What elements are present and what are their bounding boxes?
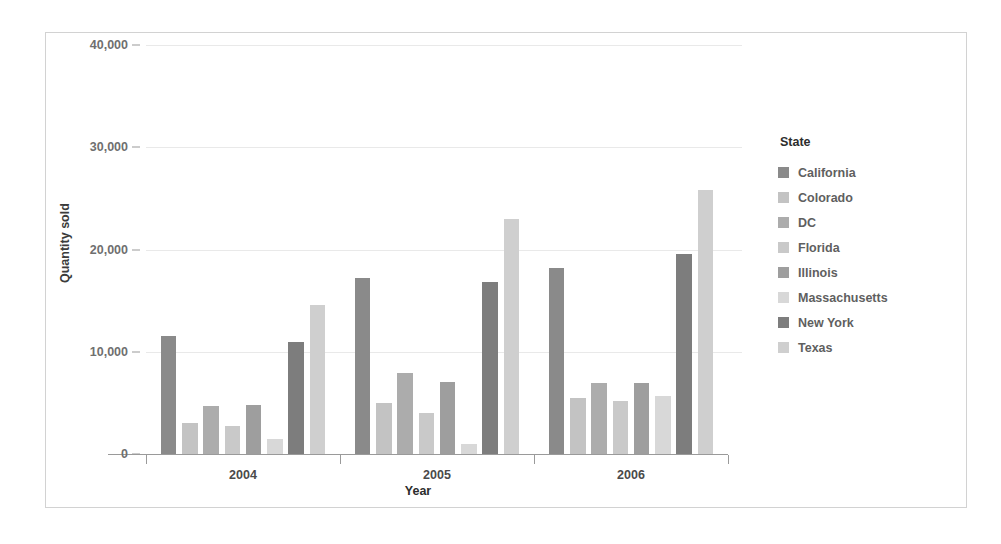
bar[interactable] <box>440 382 455 454</box>
bar[interactable] <box>161 336 176 454</box>
x-axis-tick <box>728 455 729 464</box>
legend: State CaliforniaColoradoDCFloridaIllinoi… <box>778 135 888 360</box>
legend-swatch-icon <box>778 192 789 203</box>
bar[interactable] <box>549 268 564 454</box>
bar[interactable] <box>397 373 412 454</box>
legend-item[interactable]: New York <box>778 310 888 335</box>
bar[interactable] <box>376 403 391 454</box>
legend-item[interactable]: California <box>778 160 888 185</box>
bar[interactable] <box>310 305 325 454</box>
legend-items: CaliforniaColoradoDCFloridaIllinoisMassa… <box>778 160 888 360</box>
x-axis-tick <box>534 455 535 464</box>
bar[interactable] <box>482 282 497 454</box>
bar[interactable] <box>246 405 261 454</box>
legend-item[interactable]: Massachusetts <box>778 285 888 310</box>
legend-item-label: Texas <box>798 341 833 355</box>
bar[interactable] <box>698 190 713 454</box>
legend-swatch-icon <box>778 267 789 278</box>
bar[interactable] <box>655 396 670 454</box>
legend-swatch-icon <box>778 167 789 178</box>
bar[interactable] <box>613 401 628 454</box>
bar[interactable] <box>419 413 434 454</box>
y-axis-title: Quantity sold <box>58 203 72 283</box>
legend-item-label: Florida <box>798 241 840 255</box>
legend-item[interactable]: DC <box>778 210 888 235</box>
legend-item-label: DC <box>798 216 816 230</box>
legend-item-label: New York <box>798 316 854 330</box>
legend-swatch-icon <box>778 242 789 253</box>
bar[interactable] <box>634 383 649 454</box>
x-axis-category-label: 2006 <box>617 468 645 482</box>
legend-swatch-icon <box>778 292 789 303</box>
bar[interactable] <box>676 254 691 454</box>
bar[interactable] <box>267 439 282 454</box>
legend-swatch-icon <box>778 217 789 228</box>
legend-item[interactable]: Texas <box>778 335 888 360</box>
legend-swatch-icon <box>778 342 789 353</box>
legend-swatch-icon <box>778 317 789 328</box>
legend-item-label: Colorado <box>798 191 853 205</box>
legend-item[interactable]: Colorado <box>778 185 888 210</box>
x-axis-category-label: 2004 <box>229 468 257 482</box>
bar[interactable] <box>461 444 476 454</box>
bars-layer <box>108 45 728 455</box>
legend-item[interactable]: Florida <box>778 235 888 260</box>
legend-item-label: Massachusetts <box>798 291 888 305</box>
legend-item-label: California <box>798 166 856 180</box>
legend-title: State <box>780 135 888 149</box>
bar[interactable] <box>225 426 240 454</box>
bar[interactable] <box>355 278 370 454</box>
legend-item[interactable]: Illinois <box>778 260 888 285</box>
bar[interactable] <box>288 342 303 454</box>
legend-item-label: Illinois <box>798 266 838 280</box>
x-axis-title: Year <box>108 484 728 498</box>
bar[interactable] <box>203 406 218 454</box>
x-axis-category-label: 2005 <box>423 468 451 482</box>
x-axis-tick <box>146 455 147 464</box>
bar[interactable] <box>591 383 606 454</box>
plot-area: 010,00020,00030,00040,000 <box>108 45 728 455</box>
x-axis-tick <box>340 455 341 464</box>
bar[interactable] <box>182 423 197 454</box>
bar[interactable] <box>570 398 585 454</box>
bar[interactable] <box>504 219 519 454</box>
